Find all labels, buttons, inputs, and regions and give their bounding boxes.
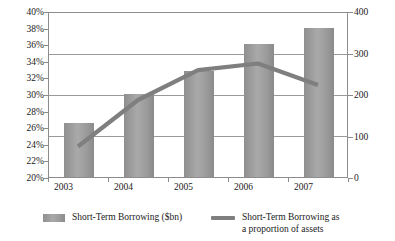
x-axis-tick-2006: 2006 [222, 182, 266, 192]
line-swatch-icon [211, 216, 235, 220]
y-axis-right-tick-0: 0 [354, 173, 394, 183]
tick-right-200 [348, 95, 353, 96]
y-axis-left-tick-20: 20% [0, 173, 44, 183]
x-axis-tick-2005: 2005 [162, 182, 206, 192]
legend-label-line-line2: a proportion of assets [242, 224, 340, 236]
bar-2003 [64, 123, 94, 177]
legend-entry-bar: Short-Term Borrowing ($bn) [43, 212, 182, 224]
chart-legend: Short-Term Borrowing ($bn) Short-Term Bo… [0, 203, 395, 241]
y-axis-left-tick-28: 28% [0, 107, 44, 117]
y-axis-left-tick-36: 36% [0, 40, 44, 50]
bar-swatch-icon [43, 214, 65, 222]
chart-container: 40% 38% 36% 34% 32% 30% 28% 26% 24% 22% … [0, 0, 395, 241]
tick-left-32 [43, 78, 48, 79]
tick-right-400 [348, 12, 353, 13]
bar-2006 [244, 44, 274, 177]
tick-right-300 [348, 54, 353, 55]
x-axis-tick-2007: 2007 [282, 182, 326, 192]
plot-area [48, 12, 348, 178]
tick-left-40 [43, 12, 48, 13]
tick-bottom-4 [288, 178, 289, 182]
tick-bottom-3 [228, 178, 229, 182]
tick-left-30 [43, 95, 48, 96]
bar-2005 [184, 71, 214, 177]
tick-right-100 [348, 137, 353, 138]
tick-left-38 [43, 29, 48, 30]
y-axis-right-tick-200: 200 [354, 90, 394, 100]
y-axis-left-tick-24: 24% [0, 140, 44, 150]
tick-left-34 [43, 62, 48, 63]
legend-label-bar: Short-Term Borrowing ($bn) [72, 212, 182, 224]
y-axis-left-tick-32: 32% [0, 73, 44, 83]
y-axis-right-tick-400: 400 [354, 7, 394, 17]
tick-left-36 [43, 45, 48, 46]
y-axis-left-tick-26: 26% [0, 123, 44, 133]
y-axis-right-tick-300: 300 [354, 49, 394, 59]
bar-2007 [304, 28, 334, 177]
bar-2004 [124, 94, 154, 177]
legend-label-line-line1: Short-Term Borrowing as [242, 212, 340, 224]
x-axis-tick-2003: 2003 [42, 182, 86, 192]
tick-bottom-0 [48, 178, 49, 182]
gridline-35 [49, 54, 347, 55]
tick-bottom-1 [108, 178, 109, 182]
tick-bottom-5 [348, 178, 349, 182]
y-axis-left-tick-38: 38% [0, 24, 44, 34]
tick-left-24 [43, 145, 48, 146]
tick-left-28 [43, 112, 48, 113]
y-axis-left-tick-22: 22% [0, 156, 44, 166]
y-axis-left-tick-30: 30% [0, 90, 44, 100]
tick-bottom-2 [168, 178, 169, 182]
x-axis-tick-2004: 2004 [102, 182, 146, 192]
tick-left-22 [43, 161, 48, 162]
tick-left-26 [43, 128, 48, 129]
y-axis-right-tick-100: 100 [354, 132, 394, 142]
legend-entry-line: Short-Term Borrowing as a proportion of … [211, 212, 340, 235]
y-axis-left-tick-40: 40% [0, 7, 44, 17]
y-axis-left-tick-34: 34% [0, 57, 44, 67]
